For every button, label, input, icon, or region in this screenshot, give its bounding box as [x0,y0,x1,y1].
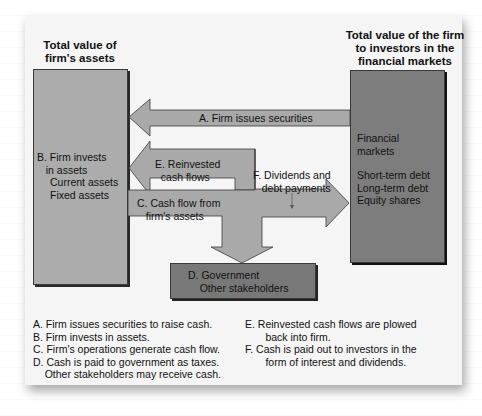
legend-item-f: F. Cash is paid out to investors in the [245,343,417,356]
legend-item-f-cont: form of interest and dividends. [245,356,417,369]
financial-markets-items: Short-term debt Long-term debt Equity sh… [357,169,430,207]
arrow-c-label: C. Cash flow from firm's assets [137,197,220,222]
firm-invests-label: B. Firm invests in assets [37,151,106,176]
government-label: D. Government Other stakeholders [188,269,288,294]
legend-left: A. Firm issues securities to raise cash.… [33,318,221,381]
legend-item-d-cont: Other stakeholders may receive cash. [33,368,221,381]
legend-item-b: B. Firm invests in assets. [33,331,221,344]
arrow-f-label: F. Dividends and debt payments [253,169,331,194]
legend-item-e: E. Reinvested cash flows are plowed [245,318,417,331]
arrow-a-label: A. Firm issues securities [199,112,313,125]
legend-item-d: D. Cash is paid to government as taxes. [33,356,221,369]
legend-item-c: C. Firm's operations generate cash flow. [33,343,221,356]
financial-markets-label: Financial markets [357,132,399,157]
legend-item-e-cont: back into firm. [245,331,417,344]
legend-item-a: A. Firm issues securities to raise cash. [33,318,221,331]
firm-assets-items: Current assets Fixed assets [50,176,118,201]
arrow-e-label: E. Reinvested cash flows [155,158,220,183]
legend-right: E. Reinvested cash flows are plowed back… [245,318,417,368]
